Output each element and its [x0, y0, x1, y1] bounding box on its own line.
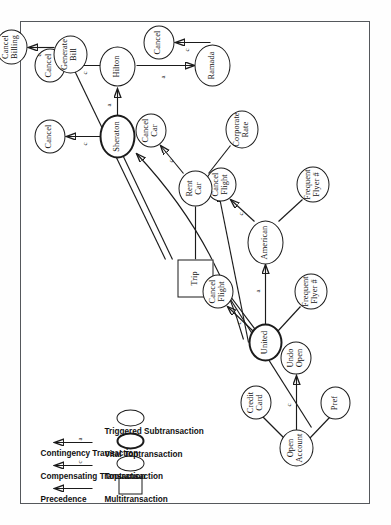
node-undo-open-label: Undo Open: [287, 348, 304, 367]
legend-arrows: [30, 286, 150, 496]
node-frequent-flyer-united[interactable]: Frequent Flyer #: [294, 273, 327, 309]
edge-label-hilton-cancel: c: [80, 71, 88, 74]
node-cancel-car-label: Cancel Car: [142, 118, 159, 142]
node-cancel-flight-united-label: Cancel Flight: [209, 279, 226, 303]
edge-label-sheraton-hilton: a: [104, 103, 112, 106]
node-cancel-sheraton[interactable]: Cancel: [34, 119, 65, 153]
edge-label-ramada-cancel: c: [182, 48, 190, 51]
edge-label-united-american: a: [253, 289, 261, 292]
node-open-account-label: Open Account: [287, 433, 304, 462]
node-cancel-billing-label: Cancel Billing: [2, 35, 19, 59]
edge-label-open-account-undo-open: c: [284, 403, 292, 406]
edge-label-generate-bill-cancel-billing: c: [34, 53, 42, 56]
node-hilton[interactable]: Hilton: [99, 46, 135, 86]
node-cancel-sheraton-label: Cancel: [45, 124, 54, 148]
edge-american-cancel_flight_a: [230, 199, 254, 221]
node-pref-label: Pref: [331, 395, 340, 409]
node-generate-bill[interactable]: Generate Bill: [53, 35, 87, 73]
edge-open_account-credit_card: [262, 416, 284, 438]
node-ramada[interactable]: Ramada: [194, 44, 230, 86]
edge-label-hilton-ramada: a: [158, 75, 166, 78]
node-united[interactable]: United: [248, 323, 282, 361]
edge-label-rent-car-cancel-car: c: [166, 159, 174, 162]
edge-trip-generate_bill: [74, 70, 165, 259]
node-credit-card[interactable]: Credit Card: [240, 385, 271, 419]
node-cancel-billing[interactable]: Cancel Billing: [0, 29, 27, 64]
edge-open_account-pref: [309, 416, 330, 438]
node-frequent-flyer-american-label: Frequent Flyer #: [304, 169, 321, 200]
node-cancel-hilton-label: Cancel: [45, 53, 54, 77]
node-american-label: American: [261, 225, 270, 259]
node-american[interactable]: American: [247, 220, 283, 264]
legend: Multitransaction Toptransaction Vital To…: [30, 286, 150, 496]
edge-united-frequent_flyer_u: [277, 306, 300, 331]
node-cancel-ramada-label: Cancel: [154, 30, 163, 54]
node-generate-bill-label: Generate Bill: [61, 38, 78, 69]
node-united-label: United: [261, 330, 270, 353]
legend-arrow-marker-contingency: a: [75, 437, 82, 440]
edge-american-frequent_flyer_a: [278, 199, 302, 221]
edge-trip-sheraton: [120, 150, 172, 259]
node-ramada-label: Ramada: [208, 51, 217, 79]
diagram-canvas: Trip Open Account Credit Card Pref Undo …: [22, 23, 368, 502]
legend-label-compensating-transaction: Compensating Transaction: [40, 471, 145, 480]
edge-label-american-cancel-flight: c: [236, 212, 244, 215]
node-sheraton-label: Sheraton: [113, 121, 122, 152]
node-pref[interactable]: Pref: [320, 386, 350, 419]
node-corporate-rate[interactable]: Corporate Rate: [225, 110, 258, 148]
node-rent-car[interactable]: Rent Car: [178, 170, 212, 206]
legend-arrow-marker-compensating: c: [75, 460, 82, 463]
node-cancel-ramada[interactable]: Cancel: [143, 25, 174, 59]
node-cancel-flight-united[interactable]: Cancel Flight: [202, 274, 233, 308]
edge-label-united-cancel-flight: c: [234, 321, 242, 324]
figure-frame: Trip Open Account Credit Card Pref Undo …: [20, 21, 370, 504]
node-undo-open[interactable]: Undo Open: [280, 341, 311, 374]
node-trip-label: Trip: [191, 271, 200, 286]
edge-label-sheraton-cancel: c: [80, 142, 88, 145]
node-open-account[interactable]: Open Account: [279, 429, 313, 466]
legend-label-precedence: Precedence: [40, 494, 86, 503]
legend-label-contingency-transaction: Contingency Transaction: [40, 448, 138, 457]
node-frequent-flyer-american[interactable]: Frequent Flyer #: [296, 166, 329, 202]
figure-page: Trip Open Account Credit Card Pref Undo …: [0, 0, 391, 525]
node-credit-card-label: Credit Card: [247, 391, 264, 413]
node-frequent-flyer-united-label: Frequent Flyer #: [302, 276, 319, 307]
node-cancel-car[interactable]: Cancel Car: [135, 113, 166, 147]
node-rent-car-label: Rent Car: [186, 180, 203, 196]
node-cancel-flight-american-label: Cancel Flight: [212, 172, 229, 196]
node-corporate-rate-label: Corporate Rate: [233, 112, 250, 146]
node-sheraton[interactable]: Sheraton: [99, 114, 135, 158]
node-hilton-label: Hilton: [113, 55, 122, 77]
